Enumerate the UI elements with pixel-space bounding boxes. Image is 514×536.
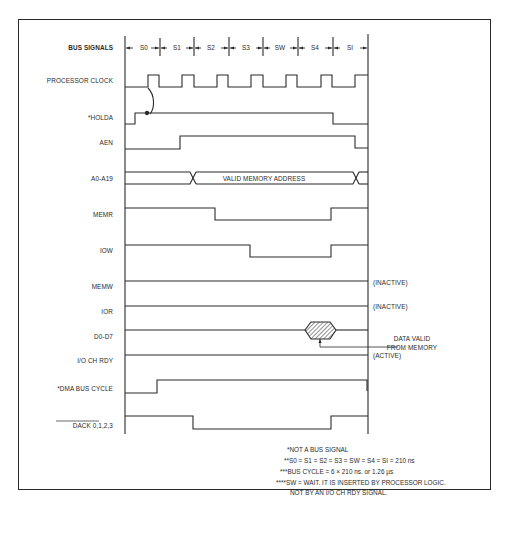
label-aen: AEN bbox=[100, 139, 114, 146]
state-s3: S3 bbox=[242, 44, 250, 51]
label-memr: MEMR bbox=[93, 211, 113, 218]
note-2: **S0 = S1 = S2 = S3 = SW = S4 = SI = 210… bbox=[284, 457, 415, 464]
address-annotation: VALID MEMORY ADDRESS bbox=[223, 175, 306, 182]
note-3: ***BUS CYCLE = 6 × 210 ns. or 1.26 µs bbox=[280, 468, 393, 476]
holda-sync-dot bbox=[145, 111, 148, 114]
clock-holda-causal-link bbox=[148, 88, 154, 114]
ior-status: (INACTIVE) bbox=[373, 303, 408, 311]
label-dma-bus-cycle: *DMA BUS CYCLE bbox=[57, 385, 113, 392]
data-valid-label-line1: DATA VALID bbox=[394, 335, 431, 342]
state-s2: S2 bbox=[207, 44, 215, 51]
label-holda: *HOLDA bbox=[88, 114, 114, 121]
note-1: *NOT A BUS SIGNAL bbox=[287, 446, 349, 453]
dack-waveform bbox=[125, 416, 368, 429]
io-ch-rdy-status: (ACTIVE) bbox=[373, 352, 401, 360]
data-valid-label-line2: FROM MEMORY bbox=[387, 344, 438, 351]
state-s1: S1 bbox=[173, 44, 181, 51]
label-address-bus: A0-A19 bbox=[91, 175, 113, 182]
label-processor-clock: PROCESSOR CLOCK bbox=[47, 77, 114, 84]
label-memw: MEMW bbox=[92, 283, 114, 290]
note-4: ****SW = WAIT. IT IS INSERTED BY PROCESS… bbox=[276, 479, 446, 486]
label-dack: DACK 0,1,2,3 bbox=[73, 422, 114, 429]
holda-waveform bbox=[125, 113, 368, 124]
data-valid-hatched-region bbox=[305, 322, 336, 339]
label-ior: IOR bbox=[101, 308, 113, 315]
state-s4: S4 bbox=[311, 44, 319, 51]
processor-clock-waveform bbox=[125, 75, 368, 87]
memw-status: (INACTIVE) bbox=[373, 279, 408, 287]
memr-waveform bbox=[125, 208, 368, 220]
state-s0: S0 bbox=[140, 44, 148, 51]
label-io-ch-rdy: I/O CH RDY bbox=[77, 357, 113, 364]
label-data-bus: D0-D7 bbox=[94, 333, 113, 340]
note-5: NOT BY AN I/O CH RDY SIGNAL. bbox=[290, 489, 388, 496]
dma-bus-cycle-waveform bbox=[125, 380, 367, 393]
state-si: SI bbox=[347, 44, 353, 51]
label-iow: IOW bbox=[100, 247, 114, 254]
iow-waveform bbox=[125, 245, 368, 257]
aen-waveform bbox=[125, 136, 368, 149]
header-label: BUS SIGNALS bbox=[68, 44, 113, 51]
data-valid-pointer-arrow bbox=[319, 339, 322, 343]
timing-diagram: BUS SIGNALS PROCESSOR CLOCK *HOLDA AEN A… bbox=[0, 0, 514, 536]
state-sw: SW bbox=[275, 44, 286, 51]
